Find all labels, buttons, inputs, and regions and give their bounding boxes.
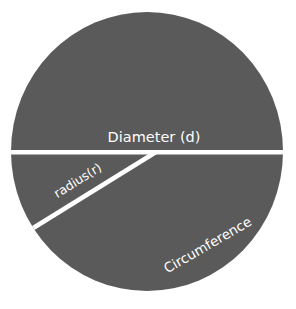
circle-diagram: Diameter (d) radius(r) Circumference (0, 0, 296, 309)
diameter-label: Diameter (d) (108, 129, 201, 145)
diameter-line (0, 150, 296, 155)
